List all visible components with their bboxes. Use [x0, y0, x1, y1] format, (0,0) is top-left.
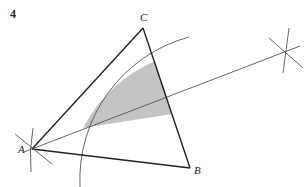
- label-B: B: [194, 164, 201, 176]
- label-A: A: [17, 143, 25, 155]
- side-AB: [32, 149, 190, 168]
- angle-bisector: [24, 46, 300, 152]
- triangle-construction-diagram: 4 C A B: [0, 0, 307, 187]
- question-number: 4: [10, 7, 16, 21]
- label-C: C: [140, 11, 148, 23]
- construction-marks-bisector: [269, 28, 303, 73]
